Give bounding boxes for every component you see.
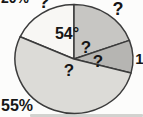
label-question-slice-dark: ?: [93, 53, 103, 70]
pie-chart-figure: 20%??54°???155%: [0, 0, 143, 117]
label-question-top-cut: ?: [39, 0, 50, 11]
label-55-percent: 55%: [1, 98, 33, 114]
scan-artifact-line: [30, 114, 143, 117]
label-topleft-cut-fragment: 20%: [1, 0, 29, 5]
label-question-slice-large: ?: [64, 62, 74, 79]
label-question-slice-top-right: ?: [81, 39, 91, 56]
label-54-degrees: 54°: [55, 26, 79, 42]
label-question-top-right: ?: [113, 0, 124, 18]
label-1-cut-right: 1: [135, 51, 143, 66]
